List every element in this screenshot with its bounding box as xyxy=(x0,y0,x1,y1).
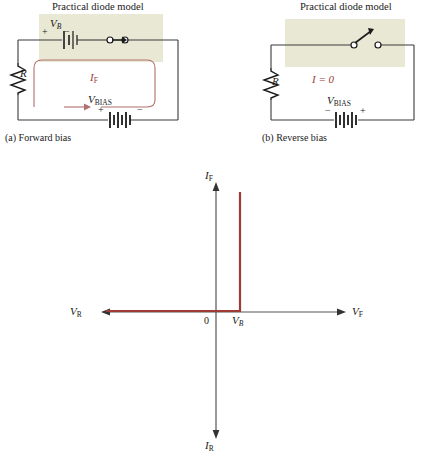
y-axis-arrow-up xyxy=(213,182,220,191)
resistor-label-a: R xyxy=(20,68,27,79)
panel-a-caption: (a) Forward bias xyxy=(5,133,71,143)
barrier-minus-sign-a: − xyxy=(64,27,70,37)
bias-minus-sign-b: − xyxy=(325,106,331,116)
panel-a-schematic xyxy=(0,0,216,150)
y-axis-arrow-down xyxy=(213,430,220,439)
axis-label-ir: IR xyxy=(205,440,214,451)
chart-canvas xyxy=(0,158,432,458)
barrier-voltage-tick-label: VB xyxy=(232,315,243,326)
axis-label-vr: VR xyxy=(70,306,82,317)
bias-battery-a xyxy=(110,112,130,128)
bias-battery-b xyxy=(336,112,356,128)
figure-practical-diode-model: Practical diode model xyxy=(0,0,432,458)
axis-label-vf: VF xyxy=(352,306,363,317)
axis-label-if: IF xyxy=(205,170,213,181)
bias-plus-sign-a: + xyxy=(98,105,104,115)
bias-plus-sign-b: + xyxy=(360,106,366,116)
barrier-plus-sign-a: + xyxy=(42,27,48,37)
zero-current-label-b: I = 0 xyxy=(312,74,334,85)
origin-tick-label: 0 xyxy=(204,316,209,326)
panel-b-caption: (b) Reverse bias xyxy=(262,133,327,143)
highlight-box-b xyxy=(285,19,405,67)
resistor-label-b: R xyxy=(272,76,279,87)
x-axis-arrow-right xyxy=(337,309,346,316)
barrier-voltage-label-a: VB xyxy=(50,18,61,29)
forward-current-label-a: IF xyxy=(90,72,98,83)
bias-minus-sign-a: − xyxy=(137,105,143,115)
diode-curve xyxy=(106,192,240,311)
